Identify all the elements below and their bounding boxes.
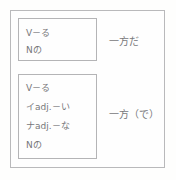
form-line: V－る — [26, 28, 50, 38]
form-box-row-2: V－る イadj.－い ナadj.－な Nの — [18, 74, 97, 159]
form-box-row-1: V－る Nの — [18, 18, 97, 61]
pattern-label-row-1: 一方だ — [109, 36, 139, 47]
table-outer-frame: V－る Nの 一方だ V－る イadj.－い ナadj.－な Nの 一方（で） — [10, 10, 165, 168]
form-line: Nの — [26, 140, 42, 150]
pattern-label-row-2: 一方（で） — [109, 109, 159, 120]
form-line: ナadj.－な — [26, 121, 70, 131]
form-line: イadj.－い — [26, 102, 70, 112]
form-line: V－る — [26, 83, 50, 93]
form-line: Nの — [26, 45, 42, 55]
grammar-pattern-figure: V－る Nの 一方だ V－る イadj.－い ナadj.－な Nの 一方（で） — [0, 0, 176, 180]
